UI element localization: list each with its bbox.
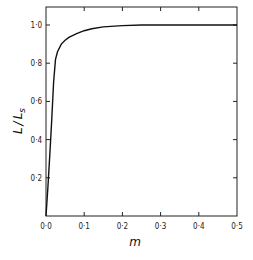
y-label-subscript: s xyxy=(17,108,27,113)
svg-text:L/Ls: L/Ls xyxy=(11,108,27,134)
x-tick-label: 0·4 xyxy=(193,222,205,231)
x-tick-label: 0·0 xyxy=(40,222,52,231)
y-label-L: L xyxy=(11,127,25,134)
y-axis-ticks xyxy=(46,25,237,178)
y-tick-label: 0·4 xyxy=(31,136,43,145)
y-tick-label: 0·2 xyxy=(31,174,42,183)
y-tick-labels: 0·2 0·4 0·6 0·8 1·0 xyxy=(31,21,43,183)
x-axis-label: m xyxy=(129,235,141,249)
y-label-Ls: L xyxy=(11,113,25,120)
x-tick-labels: 0·0 0·1 0·2 0·3 0·4 0·5 xyxy=(40,222,242,231)
x-tick-label: 0·3 xyxy=(155,222,166,231)
y-tick-label: 0·6 xyxy=(31,97,43,106)
x-axis-ticks xyxy=(84,7,199,216)
x-tick-label: 0·2 xyxy=(117,222,128,231)
data-series-line xyxy=(46,25,237,216)
y-tick-label: 0·8 xyxy=(31,59,43,68)
plot-frame xyxy=(46,7,237,216)
x-tick-label: 0·1 xyxy=(78,222,89,231)
y-label-slash: / xyxy=(11,119,25,126)
y-tick-label: 1·0 xyxy=(31,21,43,30)
chart-canvas: 0·0 0·1 0·2 0·3 0·4 0·5 0·2 0·4 0·6 0·8 … xyxy=(0,0,253,260)
y-axis-label: L/Ls xyxy=(11,108,27,134)
x-tick-label: 0·5 xyxy=(231,222,242,231)
